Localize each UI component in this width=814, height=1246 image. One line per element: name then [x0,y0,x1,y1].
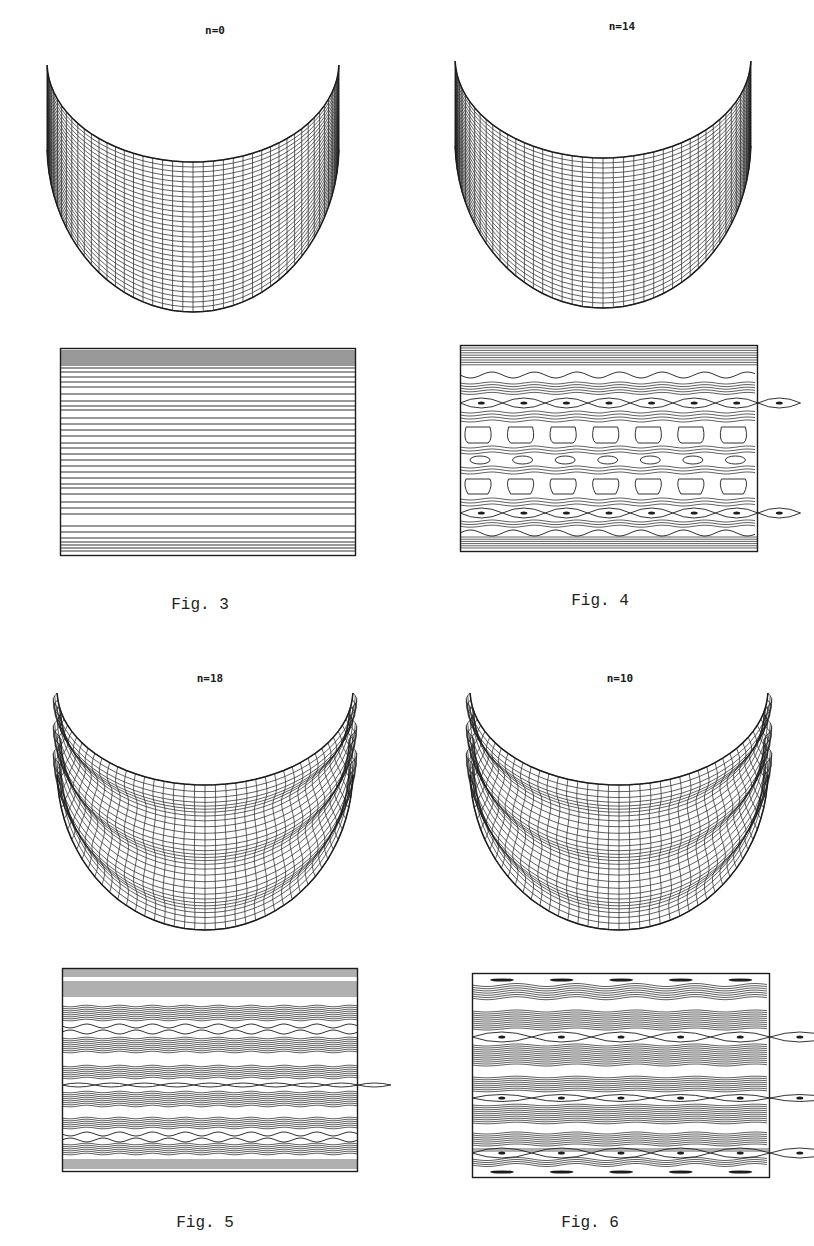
mesh-label: n=10 [560,672,680,685]
shell-mesh-plot [47,62,339,322]
shell-mesh-plot [455,58,751,318]
shell-mesh-plot [57,690,353,940]
shell-mesh-plot [470,690,768,940]
contour-plot [60,348,356,556]
contour-plot [460,345,758,552]
figure-caption: Fig. 5 [135,1214,275,1232]
contour-plot [472,973,770,1178]
mesh-label: n=0 [155,24,275,37]
mesh-label: n=18 [150,672,270,685]
contour-plot [62,968,358,1172]
figure-caption: Fig. 3 [130,596,270,614]
figure-caption: Fig. 6 [520,1214,660,1232]
figure-caption: Fig. 4 [530,592,670,610]
mesh-label: n=14 [562,20,682,33]
